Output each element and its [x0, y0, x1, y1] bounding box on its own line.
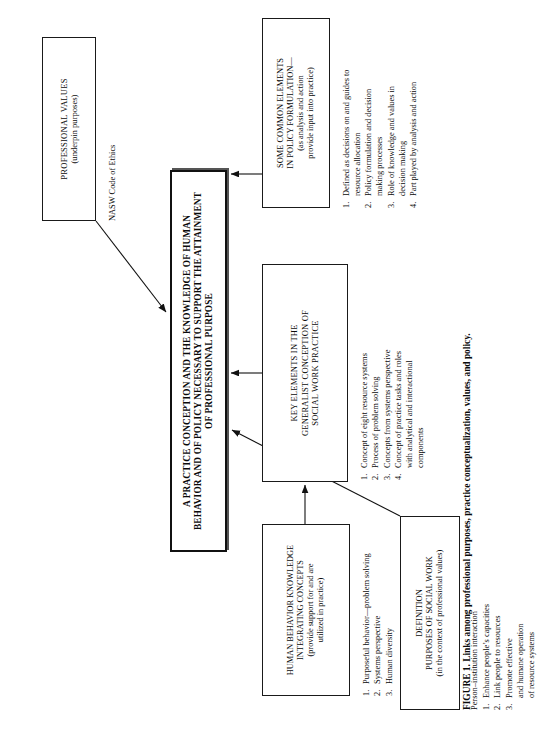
list-item: 3.Role of knowledge and values in decisi…	[387, 69, 409, 208]
list-item-label: Enhance people’s capacities	[482, 604, 493, 698]
list-item: 3.Promote effective and humane operation…	[505, 604, 538, 710]
list-item-number: 2.	[493, 698, 504, 710]
values-box-line-2: (underpin purposes)	[69, 95, 79, 164]
human-behavior-list: 1.Purposeful behavior—problem solving2.S…	[362, 553, 396, 696]
list-item-label: Systems perspective	[373, 616, 384, 684]
policy-box-line-1: SOME COMMON ELEMENTS	[276, 58, 286, 168]
list-item-number: 1.	[482, 698, 493, 710]
list-item: 2.Systems perspective	[373, 553, 384, 696]
list-item-label: Role of knowledge and values in decision…	[387, 86, 409, 196]
definition-purposes-list: 1.Enhance people’s capacities2.Link peop…	[482, 604, 538, 710]
key-elements-list: 1.Concept of eight resource systems2.Pro…	[360, 350, 428, 480]
definition-purposes-box: DEFINITION PURPOSES OF SOCIAL WORK (in t…	[400, 516, 460, 710]
policy-box-line-4: provide input into practice)	[306, 67, 316, 158]
definition-box-line-2: PURPOSES OF SOCIAL WORK	[425, 556, 435, 670]
list-item-number: 2.	[373, 684, 384, 696]
human-behavior-box-line-4: utilized in practice)	[316, 578, 326, 643]
list-item-label: Link people to resources	[493, 615, 504, 698]
list-item-label: Defined as decisions on and guides to re…	[342, 69, 364, 196]
list-item-number: 1.	[342, 196, 353, 208]
list-item-number: 4.	[394, 468, 405, 480]
human-behavior-knowledge-box: HUMAN BEHAVIOR KNOWLEDGE INTEGRATING CON…	[262, 524, 350, 696]
policy-formulation-box: SOME COMMON ELEMENTS IN POLICY FORMULATI…	[262, 18, 330, 208]
list-item-number: 1.	[362, 684, 373, 696]
list-item-label: Concept of practice tasks and roles with…	[394, 351, 427, 468]
list-item-label: Part played by analysis and action	[409, 82, 420, 196]
list-item-label: Concepts from systems perspective	[383, 350, 394, 468]
values-box-line-1: PROFESSIONAL VALUES	[59, 78, 69, 179]
list-item-label: Process of problem solving	[371, 377, 382, 468]
key-elements-box-line-3: SOCIAL WORK PRACTICE	[310, 320, 320, 426]
definition-box-line-1: DEFINITION	[415, 589, 425, 636]
key-elements-generalist-box: KEY ELEMENTS IN THE GENERALIST CONCEPTIO…	[262, 264, 348, 482]
central-box-line-3: OF PROFESSIONAL PURPOSE	[204, 293, 215, 429]
key-elements-box-line-2: GENERALIST CONCEPTION OF	[300, 310, 310, 436]
professional-values-box: PROFESSIONAL VALUES (underpin purposes)	[42, 37, 96, 221]
list-item: 2.Link people to resources	[493, 604, 504, 710]
list-item-label: Policy formulation and decision making p…	[364, 89, 386, 196]
list-item-label: Concept of eight resource systems	[360, 353, 371, 468]
list-item-label: Human diversity	[385, 628, 396, 684]
list-item-number: 4.	[409, 196, 420, 208]
list-item: 1.Purposeful behavior—problem solving	[362, 553, 373, 696]
list-item-label: Promote effective and humane operation o…	[505, 624, 538, 698]
human-behavior-box-line-2: INTEGRATING CONCEPTS	[296, 560, 306, 660]
key-elements-box-line-1: KEY ELEMENTS IN THE	[289, 324, 299, 421]
list-item-number: 3.	[385, 684, 396, 696]
list-item: 3.Concepts from systems perspective	[383, 350, 394, 480]
policy-elements-list: 1.Defined as decisions on and guides to …	[342, 69, 420, 208]
connector-values-to-central	[96, 221, 166, 312]
policy-box-line-3: (as analysis and action	[296, 75, 306, 151]
central-box-line-2: BEHAVIOR AND OF POLICY NECESSARY TO SUPP…	[193, 192, 204, 530]
list-item-number: 2.	[371, 468, 382, 480]
list-item: 2.Process of problem solving	[371, 350, 382, 480]
list-item-number: 3.	[383, 468, 394, 480]
policy-box-line-2: IN POLICY FORMULATION—	[286, 57, 296, 168]
list-item: 3.Human diversity	[385, 553, 396, 696]
list-item: 1.Enhance people’s capacities	[482, 604, 493, 710]
list-item: 4.Part played by analysis and action	[409, 69, 420, 208]
list-item-number: 3.	[505, 698, 516, 710]
central-box-line-1: A PRACTICE CONCEPTION AND THE KNOWLEDGE …	[182, 215, 193, 507]
list-item-number: 1.	[360, 468, 371, 480]
nasw-code-of-ethics-annotation: NASW Code of Ethics	[108, 145, 119, 221]
figure-caption: FIGURE 1. Links among professional purpo…	[462, 333, 472, 710]
list-item-number: 3.	[387, 196, 398, 208]
list-item: 4.Concept of practice tasks and roles wi…	[394, 350, 427, 480]
human-behavior-box-line-3: (provide support for and are	[306, 563, 316, 656]
list-item-label: Purposeful behavior—problem solving	[362, 553, 373, 684]
human-behavior-box-line-1: HUMAN BEHAVIOR KNOWLEDGE	[286, 545, 296, 675]
definition-box-line-3: (in the context of professional values)	[435, 550, 445, 677]
list-item-number: 2.	[364, 196, 375, 208]
central-practice-conception-box: A PRACTICE CONCEPTION AND THE KNOWLEDGE …	[170, 170, 227, 552]
list-item: 1.Concept of eight resource systems	[360, 350, 371, 480]
list-item: 2.Policy formulation and decision making…	[364, 69, 386, 208]
list-item: 1.Defined as decisions on and guides to …	[342, 69, 364, 208]
